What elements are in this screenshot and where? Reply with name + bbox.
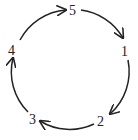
edge-3-to-4 [11,58,28,112]
node-4: 4 [8,43,15,58]
edge-1-to-2 [110,60,129,114]
node-5: 5 [69,3,76,18]
node-3: 3 [29,112,36,127]
node-1: 1 [121,44,128,59]
edge-5-to-1 [81,10,123,38]
edge-4-to-5 [20,10,66,40]
edge-2-to-3 [40,121,94,129]
cycle-diagram: 5 1 2 3 4 [0,0,138,140]
node-2: 2 [97,114,104,129]
